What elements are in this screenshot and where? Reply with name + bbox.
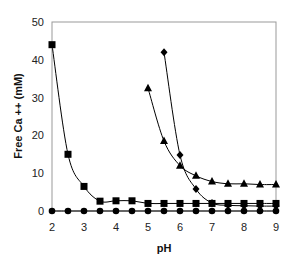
marker-triangle <box>240 179 248 187</box>
marker-circle <box>97 208 104 215</box>
marker-circle <box>81 208 88 215</box>
marker-triangle <box>256 180 264 188</box>
marker-square <box>177 200 184 207</box>
y-tick-label: 50 <box>32 16 44 28</box>
marker-square <box>193 200 200 207</box>
marker-circle <box>145 208 152 215</box>
marker-square <box>161 200 168 207</box>
y-tick-label: 0 <box>38 205 44 217</box>
marker-circle <box>177 208 184 215</box>
marker-diamond <box>161 48 168 56</box>
marker-square <box>129 197 136 204</box>
x-tick-label: 5 <box>145 221 151 233</box>
marker-circle <box>113 208 120 215</box>
y-tick-label: 30 <box>32 92 44 104</box>
marker-circle <box>161 208 168 215</box>
x-tick-label: 3 <box>81 221 87 233</box>
marker-circle <box>129 208 136 215</box>
marker-triangle <box>224 179 232 187</box>
marker-square <box>49 41 56 48</box>
marker-circle <box>193 208 200 215</box>
marker-square <box>97 198 104 205</box>
y-tick-label: 40 <box>32 54 44 66</box>
marker-triangle <box>144 84 152 92</box>
marker-circle <box>209 208 216 215</box>
marker-square <box>145 200 152 207</box>
x-tick-label: 6 <box>177 221 183 233</box>
series-line-squares <box>52 45 276 204</box>
chart: 0102030405023456789 pH Free Ca ++ (mM) <box>0 0 294 266</box>
y-tick-label: 10 <box>32 167 44 179</box>
y-tick-label: 20 <box>32 129 44 141</box>
x-tick-label: 2 <box>49 221 55 233</box>
marker-triangle <box>160 137 168 145</box>
x-tick-label: 9 <box>273 221 279 233</box>
x-tick-label: 7 <box>209 221 215 233</box>
marker-circle <box>49 208 56 215</box>
marker-square <box>113 197 120 204</box>
series-line-triangles <box>148 88 276 184</box>
marker-triangle <box>192 171 200 179</box>
x-tick-label: 8 <box>241 221 247 233</box>
marker-square <box>65 151 72 158</box>
plot-series <box>49 41 281 214</box>
x-tick-label: 4 <box>113 221 119 233</box>
marker-triangle <box>272 180 280 188</box>
y-axis-label: Free Ca ++ (mM) <box>12 73 24 159</box>
marker-square <box>81 183 88 190</box>
marker-diamond <box>177 151 184 159</box>
marker-circle <box>65 208 72 215</box>
x-axis-label: pH <box>157 242 172 254</box>
